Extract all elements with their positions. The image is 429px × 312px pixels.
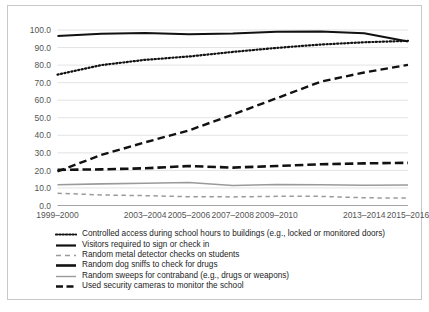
y-tick-label: 30.0	[34, 148, 51, 158]
chart-figure: 0.010.020.030.040.050.060.070.080.090.01…	[0, 0, 429, 312]
legend-line-swatch-icon	[55, 260, 77, 270]
legend-item-label: Controlled access during school hours to…	[82, 229, 385, 239]
legend-line-swatch-icon	[55, 281, 77, 291]
y-tick-label: 40.0	[34, 130, 51, 140]
y-axis-tick-labels: 0.010.020.030.040.050.060.070.080.090.01…	[30, 25, 52, 211]
legend-item-label: Visitors required to sign or check in	[82, 240, 209, 250]
x-tick-label: 2003–2004	[124, 210, 167, 220]
series-line	[58, 65, 409, 172]
y-tick-label: 10.0	[34, 183, 51, 193]
series-line	[58, 163, 409, 170]
y-tick-label: 90.0	[34, 43, 51, 53]
series-line	[58, 193, 409, 198]
legend-line-swatch-icon	[55, 271, 77, 281]
legend-item-label: Random dog sniffs to check for drugs	[82, 260, 217, 270]
legend-item[interactable]: Random sweeps for contraband (e.g., drug…	[55, 271, 415, 281]
chart-legend: Controlled access during school hours to…	[55, 229, 415, 291]
legend-line-swatch-icon	[55, 229, 77, 239]
x-tick-label: 2005–2006	[168, 210, 211, 220]
y-tick-label: 100.0	[30, 25, 52, 35]
series-line	[58, 31, 409, 41]
y-tick-label: 80.0	[34, 60, 51, 70]
x-tick-label: 1999–2000	[36, 210, 79, 220]
legend-item-label: Random metal detector checks on students	[82, 250, 239, 260]
series-line	[58, 41, 409, 75]
legend-item[interactable]: Visitors required to sign or check in	[55, 239, 415, 249]
legend-item-label: Random sweeps for contraband (e.g., drug…	[82, 271, 289, 281]
y-tick-label: 20.0	[34, 166, 51, 176]
x-axis-tick-labels: 1999–20002003–20042005–20062007–20082009…	[36, 210, 429, 220]
x-tick-label: 2015–2016	[387, 210, 429, 220]
data-series-group	[58, 31, 409, 198]
gridlines-group	[58, 30, 409, 206]
legend-line-swatch-icon	[55, 250, 77, 260]
legend-item[interactable]: Controlled access during school hours to…	[55, 229, 415, 239]
legend-item[interactable]: Used security cameras to monitor the sch…	[55, 281, 415, 291]
y-tick-label: 60.0	[34, 95, 51, 105]
x-tick-label: 2007–2008	[211, 210, 254, 220]
y-tick-label: 70.0	[34, 78, 51, 88]
legend-item[interactable]: Random dog sniffs to check for drugs	[55, 260, 415, 270]
y-tick-label: 50.0	[34, 113, 51, 123]
x-tick-label: 2013–2014	[343, 210, 386, 220]
legend-item[interactable]: Random metal detector checks on students	[55, 250, 415, 260]
x-tick-label: 2009–2010	[255, 210, 298, 220]
legend-line-swatch-icon	[55, 240, 77, 250]
legend-item-label: Used security cameras to monitor the sch…	[82, 281, 244, 291]
series-line	[58, 183, 409, 186]
